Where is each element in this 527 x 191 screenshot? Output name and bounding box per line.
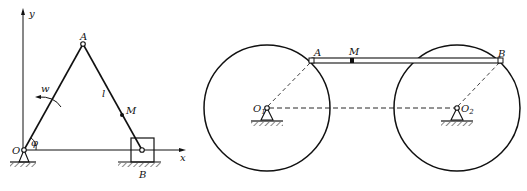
point-m-right [350,58,354,63]
label-b: B [138,169,146,180]
crank-oa [24,44,83,150]
joint-o [22,148,27,153]
crank-slider-figure: y x [10,8,186,180]
y-axis: y [21,8,35,152]
radius-o2-b [458,62,500,106]
label-a: A [79,31,87,42]
label-o2: O2 [461,103,474,116]
label-o1: O1 [253,103,266,116]
label-m-right: M [348,46,360,57]
joint-a-right [309,58,314,63]
angular-velocity-arrow-icon [35,95,61,107]
coupler-bar [312,58,500,63]
y-axis-label: y [28,8,35,19]
joint-b [140,148,145,153]
label-w: w [41,83,50,94]
label-a-right: A [313,47,321,58]
link-ab [83,44,142,150]
x-axis: x [23,148,186,163]
joint-a [81,42,86,47]
label-o: O [12,145,20,156]
label-l: l [102,88,105,99]
point-m [120,113,124,117]
label-m: M [125,105,137,116]
label-b-right: B [497,48,505,59]
two-wheel-figure: A M B O1 O2 [204,45,520,171]
x-axis-label: x [180,152,186,163]
radius-o1-a [268,62,311,106]
ground-hatch-slider [118,162,161,167]
label-phi: φ [31,137,38,148]
